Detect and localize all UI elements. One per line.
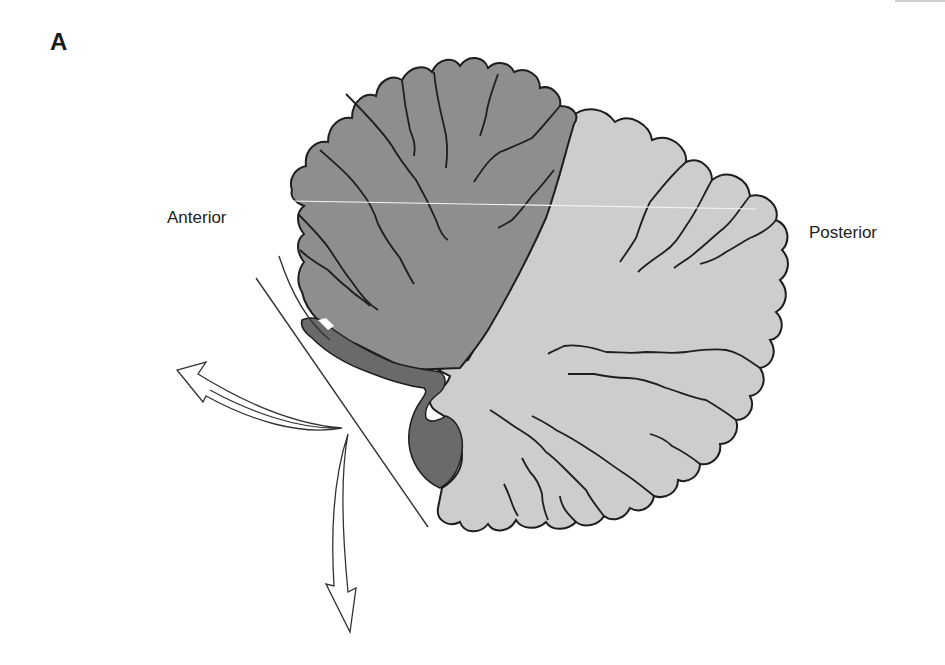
cerebellum-diagram bbox=[0, 0, 945, 665]
arrow-down-icon bbox=[326, 434, 356, 632]
arrow-up-left-icon bbox=[177, 362, 342, 430]
